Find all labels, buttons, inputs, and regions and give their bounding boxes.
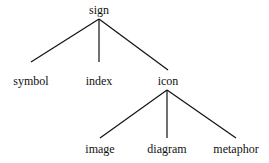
node-symbol: symbol bbox=[13, 75, 48, 87]
edge-icon-image bbox=[100, 90, 167, 138]
node-diagram: diagram bbox=[147, 143, 186, 155]
node-icon: icon bbox=[158, 75, 179, 87]
edge-icon-metaphor bbox=[167, 90, 236, 138]
tree-diagram: sign symbol index icon image diagram met… bbox=[0, 0, 269, 163]
edge-sign-symbol bbox=[31, 19, 99, 62]
node-index: index bbox=[86, 75, 113, 87]
node-metaphor: metaphor bbox=[213, 143, 258, 155]
edge-sign-icon bbox=[99, 19, 168, 70]
node-sign: sign bbox=[89, 4, 109, 16]
node-image: image bbox=[85, 143, 114, 155]
